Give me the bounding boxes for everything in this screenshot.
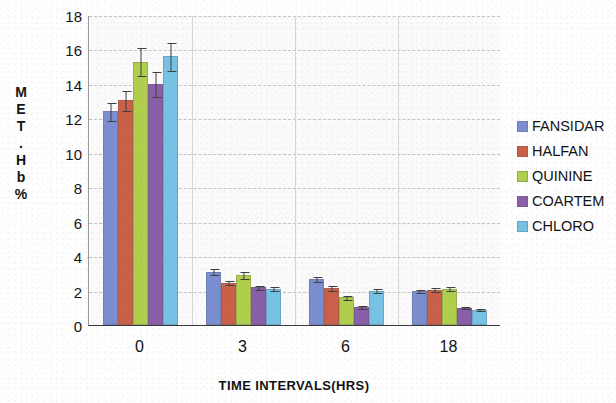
error-bar: [155, 72, 156, 98]
x-axis-tick: 6: [341, 338, 350, 356]
error-bar: [243, 272, 244, 280]
x-axis-label: TIME INTERVALS(HRS): [88, 378, 500, 393]
y-axis-tick: 0: [44, 319, 82, 334]
error-bar: [464, 307, 465, 310]
bar-fansidar: [412, 291, 427, 325]
bar-slot: [206, 16, 221, 325]
vertical-gridline: [295, 16, 296, 325]
bar-slot: [251, 16, 266, 325]
error-bar: [213, 269, 214, 276]
bar-coartem: [148, 84, 163, 325]
bar-halfan: [221, 283, 236, 325]
y-axis-label-char: b: [4, 169, 38, 186]
chart-legend: FANSIDARHALFANQUININECOARTEMCHLORO: [517, 118, 616, 243]
y-axis-tick: 8: [44, 181, 82, 196]
y-axis-tick: 18: [44, 9, 82, 24]
y-axis-label-char: .: [4, 135, 38, 152]
y-axis-tick: 12: [44, 112, 82, 127]
legend-swatch-icon: [517, 146, 528, 157]
error-bar: [449, 287, 450, 292]
bar-slot: [457, 16, 472, 325]
bar-chloro: [369, 291, 384, 325]
legend-swatch-icon: [517, 171, 528, 182]
bar-quinine: [236, 275, 251, 325]
bar-quinine: [339, 297, 354, 325]
error-bar: [170, 43, 171, 72]
bar-coartem: [251, 287, 266, 325]
legend-label: HALFAN: [532, 143, 614, 159]
bar-halfan: [324, 288, 339, 325]
bar-slot: [118, 16, 133, 325]
error-bar: [376, 289, 377, 294]
legend-label: QUININE: [532, 168, 614, 184]
y-axis-label-char: %: [4, 186, 38, 203]
bar-slot: [163, 16, 178, 325]
x-axis-tick: 0: [135, 338, 144, 356]
legend-item-chloro[interactable]: CHLORO: [517, 218, 616, 234]
y-axis-label-char: E: [4, 101, 38, 118]
vertical-gridline: [192, 16, 193, 325]
legend-swatch-icon: [517, 121, 528, 132]
legend-label: COARTEM: [532, 193, 614, 209]
bar-quinine: [442, 289, 457, 325]
legend-swatch-icon: [517, 221, 528, 232]
error-bar: [125, 91, 126, 112]
y-axis-tick: 16: [44, 43, 82, 58]
y-axis-label-char: M: [4, 84, 38, 101]
error-bar: [331, 286, 332, 291]
legend-label: FANSIDAR: [532, 118, 614, 134]
bar-slot: [309, 16, 324, 325]
bar-slot: [412, 16, 427, 325]
y-axis-tick: 2: [44, 284, 82, 299]
bar-slot: [266, 16, 281, 325]
bar-chart-figure: MET.Hb% 024681012141618 03618 TIME INTER…: [0, 0, 616, 403]
bar-chloro: [163, 56, 178, 325]
plot-area: [88, 16, 500, 326]
error-bar: [228, 281, 229, 286]
y-axis-label-char: T: [4, 118, 38, 135]
legend-item-fansidar[interactable]: FANSIDAR: [517, 118, 616, 134]
legend-label: CHLORO: [532, 218, 614, 234]
legend-swatch-icon: [517, 196, 528, 207]
x-axis-tick-labels: 03618: [88, 338, 500, 362]
error-bar: [434, 288, 435, 293]
bar-slot: [103, 16, 118, 325]
legend-item-coartem[interactable]: COARTEM: [517, 193, 616, 209]
error-bar: [479, 309, 480, 312]
bar-group: [103, 16, 178, 325]
y-axis-label: MET.Hb%: [4, 84, 38, 203]
y-axis-tick-labels: 024681012141618: [44, 0, 82, 403]
bar-fansidar: [103, 111, 118, 325]
legend-item-halfan[interactable]: HALFAN: [517, 143, 616, 159]
bar-slot: [427, 16, 442, 325]
error-bar: [258, 286, 259, 291]
bar-slot: [472, 16, 487, 325]
bar-group: [206, 16, 281, 325]
y-axis-tick: 4: [44, 250, 82, 265]
x-axis-tick: 3: [238, 338, 247, 356]
bar-halfan: [427, 290, 442, 325]
bar-slot: [369, 16, 384, 325]
bar-slot: [339, 16, 354, 325]
bar-quinine: [133, 62, 148, 326]
bar-slot: [442, 16, 457, 325]
bar-slot: [236, 16, 251, 325]
error-bar: [140, 48, 141, 77]
y-axis-label-char: H: [4, 152, 38, 169]
error-bar: [361, 306, 362, 310]
error-bar: [419, 290, 420, 294]
error-bar: [346, 296, 347, 301]
x-axis-tick: 18: [440, 338, 458, 356]
bar-group: [412, 16, 487, 325]
bar-halfan: [118, 100, 133, 325]
error-bar: [273, 287, 274, 292]
bar-chloro: [266, 289, 281, 325]
bar-slot: [221, 16, 236, 325]
legend-item-quinine[interactable]: QUININE: [517, 168, 616, 184]
y-axis-tick: 14: [44, 77, 82, 92]
bar-fansidar: [309, 279, 324, 325]
y-axis-tick: 6: [44, 215, 82, 230]
y-axis-tick: 10: [44, 146, 82, 161]
bar-fansidar: [206, 272, 221, 325]
vertical-gridline: [398, 16, 399, 325]
